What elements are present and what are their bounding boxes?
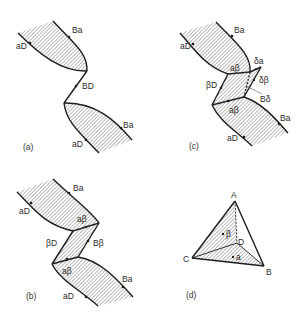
label-bD: βD — [46, 238, 57, 248]
panel-a-caption: (a) — [23, 142, 34, 152]
label-aD: aD — [16, 41, 27, 51]
panel-a: aD Ba BD Ba aD (a) — [16, 21, 134, 153]
arrow-marker — [253, 79, 255, 81]
label-Ba: Ba — [234, 25, 245, 35]
vertex-B: B — [266, 267, 272, 277]
label-bD: βD — [206, 80, 217, 90]
label-aD: aD — [72, 139, 83, 149]
panel-b: aD Ba aβ βD Bβ aβ Ba aD (b) — [17, 179, 133, 306]
label-Ba: Ba — [73, 183, 84, 193]
point-beta — [222, 233, 224, 235]
label-aD: aD — [63, 291, 74, 301]
phase-diagram-figure: aD Ba BD Ba aD (a) aD Ba aβ βD Bβ aβ — [0, 0, 305, 320]
arrow-marker — [87, 240, 90, 243]
arrow-marker — [66, 258, 69, 261]
arrow-marker — [120, 127, 123, 130]
panel-d-caption: (d) — [186, 290, 197, 300]
label-ab: aβ — [62, 266, 72, 276]
label-Bb: Bβ — [93, 238, 104, 248]
arrow-marker — [243, 136, 246, 139]
label-alpha: a — [236, 252, 241, 262]
label-ab: aβ — [77, 214, 87, 224]
arrow-marker — [227, 100, 229, 102]
arrow-marker — [278, 123, 281, 126]
label-aD: aD — [227, 133, 238, 143]
arrow-marker — [68, 36, 71, 39]
arrow-marker — [29, 42, 32, 45]
arrow-marker — [68, 192, 71, 195]
label-Ba: Ba — [123, 120, 134, 130]
arrow-marker — [192, 43, 195, 46]
arrow-marker — [220, 87, 222, 89]
label-Ba: Ba — [280, 113, 291, 123]
panel-b-caption: (b) — [26, 291, 37, 301]
label-aD: aD — [180, 41, 191, 51]
label-da: δa — [254, 56, 264, 66]
label-ab: aβ — [230, 63, 240, 73]
arrow-marker — [75, 85, 78, 88]
label-aD: aD — [19, 206, 30, 216]
label-Ba: Ba — [72, 25, 83, 35]
arrow-marker — [85, 139, 88, 142]
label-db: δβ — [259, 75, 269, 85]
label-Bd: Bδ — [260, 94, 271, 104]
panel-c: aD Ba aβ δa δβ Bδ βD aβ Ba aD (c) — [180, 22, 291, 151]
point-alpha — [232, 256, 234, 258]
vertex-C: C — [183, 254, 189, 264]
arrow-marker — [85, 296, 88, 299]
arrow-marker — [231, 35, 234, 38]
label-BD: BD — [82, 81, 94, 91]
label-Ba: Ba — [122, 274, 133, 284]
label-beta: β — [226, 229, 231, 239]
arrow-marker — [122, 286, 125, 289]
arrow-marker — [30, 202, 33, 205]
vertex-A: A — [231, 190, 237, 200]
panel-c-caption: (c) — [189, 141, 199, 151]
label-ab: aβ — [229, 105, 239, 115]
vertex-D: D — [238, 237, 244, 247]
arrow-marker — [255, 68, 257, 70]
panel-d: A B C D β a (d) — [183, 190, 272, 300]
